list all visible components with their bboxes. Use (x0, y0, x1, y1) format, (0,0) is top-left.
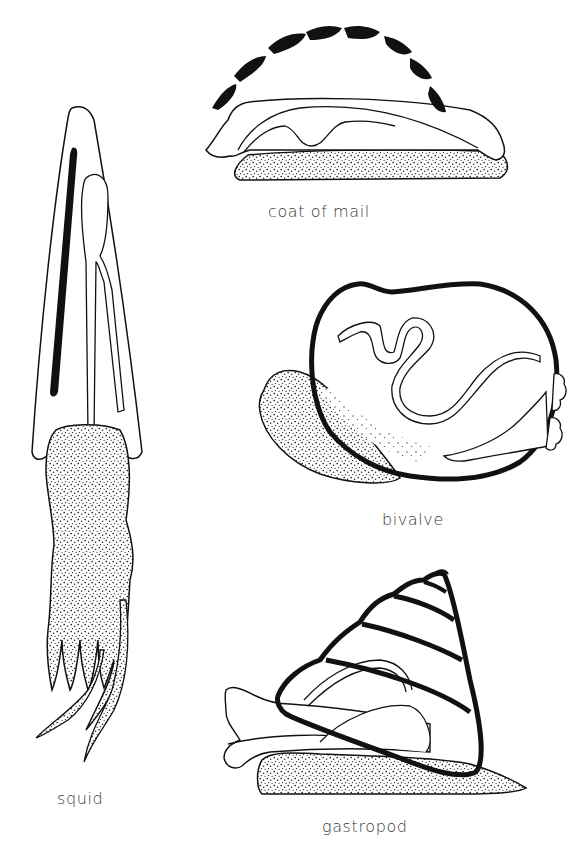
bivalve-figure (259, 284, 566, 483)
label-bivalve: bivalve (382, 510, 444, 529)
chiton-foot (235, 150, 508, 180)
squid-figure (32, 107, 142, 762)
gastropod-foot (258, 753, 527, 794)
label-squid: squid (57, 789, 103, 808)
label-coat-of-mail: coat of mail (268, 202, 370, 221)
bivalve-siphon (552, 374, 566, 411)
gastropod-figure (224, 570, 526, 794)
label-gastropod: gastropod (322, 817, 408, 836)
mollusc-diagram: coat of mail bivalve squid gastropod (0, 0, 587, 843)
coat-of-mail-figure (206, 26, 508, 180)
